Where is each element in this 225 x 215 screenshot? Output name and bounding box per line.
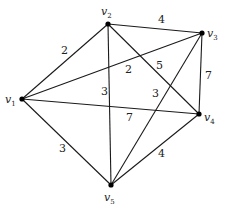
vertex-v5: [108, 182, 113, 187]
vertex-label-subscript: 1: [11, 100, 15, 108]
edge-v1-v3: [22, 33, 202, 99]
edge-v2-v3: [108, 24, 202, 33]
vertex-v4: [196, 111, 201, 116]
vertex-v3: [199, 30, 204, 35]
edge-weight-v3-v4: 7: [205, 69, 212, 82]
edge-v1-v2: [22, 24, 108, 99]
edge-weight-v1-v4: 7: [126, 111, 133, 124]
edge-weight-v1-v3: 2: [125, 63, 132, 76]
vertex-label-v5: v5: [104, 191, 115, 206]
edge-weight-v4-v5: 4: [158, 147, 165, 160]
nodes-layer: [19, 21, 204, 187]
vertex-label-v3: v3: [207, 27, 218, 42]
edge-v3-v4: [199, 33, 202, 114]
edges-layer: [22, 24, 202, 185]
vertex-label-subscript: 4: [210, 118, 215, 126]
vertex-v1: [19, 96, 24, 101]
edge-v4-v5: [111, 114, 199, 185]
vertex-label-subscript: 5: [110, 198, 114, 206]
edge-weight-v1-v5: 3: [59, 142, 66, 155]
vertex-label-v4: v4: [204, 111, 215, 126]
edge-v2-v4: [108, 24, 199, 114]
edge-v2-v5: [108, 24, 111, 185]
edge-v1-v5: [22, 99, 111, 185]
edge-weight-v1-v2: 2: [61, 44, 68, 57]
graph-canvas: 2425337734v1v2v3v4v5: [0, 0, 225, 215]
edge-weight-v3-v5: 3: [152, 87, 159, 100]
edge-weight-v2-v4: 5: [156, 59, 163, 72]
edge-v3-v5: [111, 33, 202, 185]
vertex-label-subscript: 2: [107, 12, 111, 20]
vertex-label-v1: v1: [5, 93, 16, 108]
edge-v1-v4: [22, 99, 199, 114]
vertex-label-subscript: 3: [213, 34, 217, 42]
vertex-v2: [105, 21, 110, 26]
edge-weight-v2-v3: 4: [158, 13, 165, 26]
vertex-label-v2: v2: [101, 5, 112, 20]
edge-weight-v2-v5: 3: [101, 85, 108, 98]
